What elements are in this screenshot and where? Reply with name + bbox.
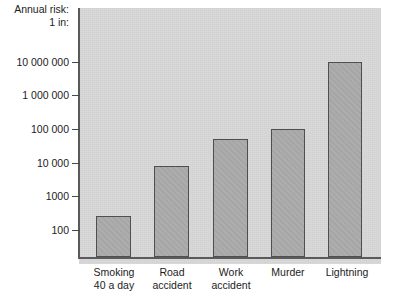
category-label-lightning: Lightning [310, 266, 384, 279]
y-tick-label-10000: 10 000 [0, 158, 69, 168]
y-tick-100 [72, 230, 80, 231]
y-tick-10000000 [72, 62, 80, 63]
y-tick-label-100: 100 [0, 225, 69, 235]
bar-work-accident [213, 139, 248, 257]
bar-smoking [96, 216, 131, 257]
y-tick-label-1000000: 1 000 000 [0, 90, 69, 100]
y-tick-1000000 [72, 95, 80, 96]
risk-bar-chart: Annual risk: 1 in: 10 000 000 1 000 000 … [0, 0, 393, 298]
y-tick-label-100000: 100 000 [0, 124, 69, 134]
chart-title: Annual risk: 1 in: [0, 3, 69, 29]
chart-title-line-1: Annual risk: [0, 3, 69, 16]
bar-lightning [328, 62, 362, 257]
y-tick-1000 [72, 196, 80, 197]
y-tick-label-1000: 1000 [0, 191, 69, 201]
y-tick-label-10000000: 10 000 000 [0, 57, 69, 67]
y-tick-100000 [72, 129, 80, 130]
y-axis-line [78, 8, 80, 259]
bar-road-accident [154, 166, 189, 257]
chart-title-line-2: 1 in: [0, 16, 69, 29]
x-axis-line [78, 257, 381, 259]
y-tick-10000 [72, 163, 80, 164]
bar-murder [271, 129, 305, 257]
